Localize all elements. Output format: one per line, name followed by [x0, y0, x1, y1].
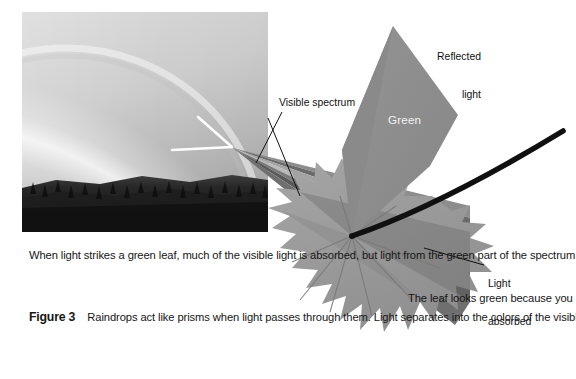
right-paragraph: The leaf looks green because you see the…	[408, 291, 568, 305]
incoming-light-rays	[172, 117, 232, 150]
visible-spectrum-label: Visible spectrum	[279, 97, 355, 110]
figure-root: Reflected light Visible spectrum Green L…	[0, 0, 576, 379]
left-paragraph: When light strikes a green leaf, much of…	[29, 248, 237, 262]
figure-caption: Figure 3 Raindrops act like prisms when …	[29, 310, 224, 324]
figure-caption-text: Raindrops act like prisms when light pas…	[87, 311, 576, 323]
reflected-light-label: Reflected light	[407, 26, 481, 127]
light-absorbed-label-line1: Light	[488, 278, 531, 291]
green-label: Green	[388, 113, 421, 126]
reflected-light-label-line1: Reflected	[407, 51, 481, 64]
figure-number: Figure 3	[29, 310, 87, 324]
reflected-light-label-line2: light	[407, 89, 481, 102]
